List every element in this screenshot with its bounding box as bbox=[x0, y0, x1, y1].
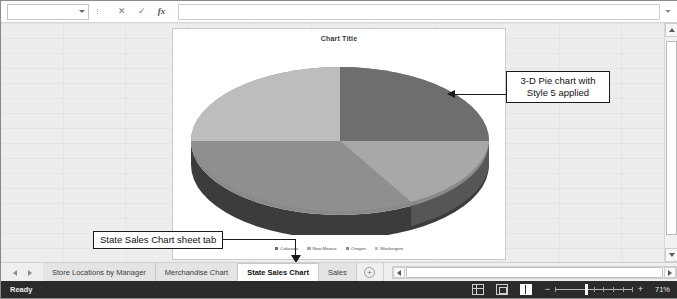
legend-item: Oregon bbox=[346, 246, 366, 251]
legend-swatch-icon bbox=[346, 247, 350, 251]
legend-label: Oregon bbox=[351, 246, 366, 251]
zoom-slider-track[interactable] bbox=[555, 289, 633, 290]
formula-bar: ✕ ✓ fx bbox=[1, 1, 677, 23]
vertical-scroll-thumb[interactable] bbox=[666, 41, 677, 235]
insert-function-icon[interactable]: fx bbox=[156, 7, 167, 16]
cancel-icon[interactable]: ✕ bbox=[116, 7, 127, 16]
chart-title[interactable]: Chart Title bbox=[173, 35, 505, 42]
chart-object[interactable]: Chart Title bbox=[172, 28, 506, 260]
zoom-slider-thumb[interactable] bbox=[585, 284, 588, 295]
zoom-in-icon[interactable]: + bbox=[637, 285, 644, 294]
normal-view-icon[interactable] bbox=[472, 284, 484, 295]
sheet-nav-next-icon[interactable] bbox=[28, 270, 32, 276]
formula-action-buttons: ✕ ✓ fx bbox=[109, 4, 174, 20]
legend-label: New Mexico bbox=[313, 246, 337, 251]
sheet-tab-merchandise-chart[interactable]: Merchandise Chart bbox=[156, 263, 238, 282]
legend-swatch-icon bbox=[307, 247, 311, 251]
status-bar: Ready − + 71% bbox=[1, 281, 677, 298]
chevron-down-icon bbox=[669, 253, 675, 257]
pie-slice-colorado bbox=[340, 67, 489, 141]
sheet-nav-buttons bbox=[1, 263, 43, 282]
zoom-out-icon[interactable]: − bbox=[544, 285, 551, 294]
callout-leader-line-style bbox=[454, 94, 507, 95]
scroll-right-button[interactable] bbox=[664, 267, 676, 278]
formula-bar-expand-icon[interactable] bbox=[662, 4, 674, 20]
page-break-preview-icon[interactable] bbox=[520, 284, 532, 295]
name-box-dropdown-icon[interactable] bbox=[79, 10, 85, 13]
horizontal-scroll-thumb[interactable] bbox=[406, 267, 663, 278]
excel-window: ✕ ✓ fx Chart Title bbox=[0, 0, 677, 299]
view-shortcut-buttons bbox=[472, 284, 544, 295]
scroll-left-button[interactable] bbox=[393, 267, 405, 278]
legend-item: New Mexico bbox=[307, 246, 336, 251]
chevron-up-icon bbox=[669, 28, 675, 32]
sheet-tab-sales[interactable]: Sales bbox=[319, 263, 357, 282]
callout-style-note: 3-D Pie chart with Style 5 applied bbox=[506, 71, 610, 103]
chevron-right-icon bbox=[668, 270, 672, 276]
name-box[interactable] bbox=[7, 4, 89, 20]
worksheet-area: Chart Title bbox=[1, 23, 677, 262]
legend-label: Washington bbox=[380, 246, 403, 251]
sheet-tab-bar: Store Locations by Manager Merchandise C… bbox=[1, 262, 677, 282]
zoom-level-label[interactable]: 71% bbox=[654, 285, 677, 294]
chevron-left-icon bbox=[397, 270, 401, 276]
horizontal-scrollbar[interactable] bbox=[392, 266, 677, 279]
vertical-scrollbar[interactable] bbox=[664, 23, 677, 262]
sheet-tab-store-locations[interactable]: Store Locations by Manager bbox=[43, 263, 156, 282]
sheet-tabs: Store Locations by Manager Merchandise C… bbox=[43, 263, 357, 282]
scroll-down-button[interactable] bbox=[665, 248, 677, 262]
enter-icon[interactable]: ✓ bbox=[136, 7, 147, 16]
sheet-tab-state-sales-chart[interactable]: State Sales Chart bbox=[238, 263, 319, 282]
worksheet-canvas[interactable]: Chart Title bbox=[1, 23, 664, 262]
scroll-up-button[interactable] bbox=[665, 23, 677, 37]
pie-slice-washington bbox=[191, 67, 340, 141]
legend-swatch-icon bbox=[375, 247, 379, 251]
legend-item: Washington bbox=[375, 246, 404, 251]
pie-chart-3d bbox=[179, 47, 501, 235]
horizontal-scrollbar-wrap bbox=[383, 263, 677, 282]
callout-style-line2: Style 5 applied bbox=[513, 87, 603, 99]
page-layout-view-icon[interactable] bbox=[496, 284, 508, 295]
callout-leader-line-tab bbox=[223, 239, 296, 240]
callout-arrow-style-icon bbox=[447, 90, 455, 98]
formula-input[interactable] bbox=[178, 4, 660, 20]
legend-swatch-icon bbox=[275, 247, 279, 251]
status-mode: Ready bbox=[1, 285, 33, 294]
sheet-nav-previous-icon[interactable] bbox=[13, 270, 17, 276]
chart-plot-area[interactable] bbox=[179, 47, 501, 235]
callout-sheet-tab-note: State Sales Chart sheet tab bbox=[93, 231, 223, 249]
plus-circle-icon: + bbox=[364, 267, 375, 278]
formula-bar-grip[interactable] bbox=[92, 4, 102, 20]
zoom-slider[interactable]: − + bbox=[544, 285, 654, 294]
callout-style-line1: 3-D Pie chart with bbox=[521, 75, 596, 86]
add-sheet-button[interactable]: + bbox=[357, 263, 383, 282]
